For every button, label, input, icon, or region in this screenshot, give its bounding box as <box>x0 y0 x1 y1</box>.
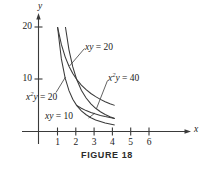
leader-xy-20 <box>70 49 85 67</box>
x-tick-label-5: 5 <box>125 138 137 148</box>
x-axis-label: x <box>194 125 198 135</box>
x-tick-label-4: 4 <box>106 138 118 148</box>
x-tick-label-6: 6 <box>143 138 155 148</box>
figure-18: y x 20 10 1 2 3 4 5 6 xy = 20 x2y = 40 x… <box>0 0 214 171</box>
y-tick-label-20: 20 <box>14 22 32 32</box>
leader-x2y-20 <box>56 77 66 93</box>
x-tick-label-2: 2 <box>70 138 82 148</box>
leader-xy-10 <box>89 113 96 118</box>
figure-caption: FIGURE 18 <box>0 151 214 160</box>
y-tick-label-10: 10 <box>14 74 32 84</box>
y-axis-arrowhead <box>36 13 40 20</box>
curve-annotation-x2y-40: x2y = 40 <box>108 74 139 84</box>
curve-xy-20-outline <box>58 27 115 105</box>
y-axis-label: y <box>38 2 42 12</box>
curve-annotation-x2y-20: x2y = 20 <box>26 93 57 103</box>
curve-annotation-xy-10: xy = 10 <box>45 112 73 122</box>
x-tick-label-1: 1 <box>52 138 64 148</box>
leader-x2y-40 <box>97 81 108 109</box>
x-tick-label-3: 3 <box>88 138 100 148</box>
curve-annotation-xy-20: xy = 20 <box>85 43 113 53</box>
x-axis-arrowhead <box>185 129 192 133</box>
